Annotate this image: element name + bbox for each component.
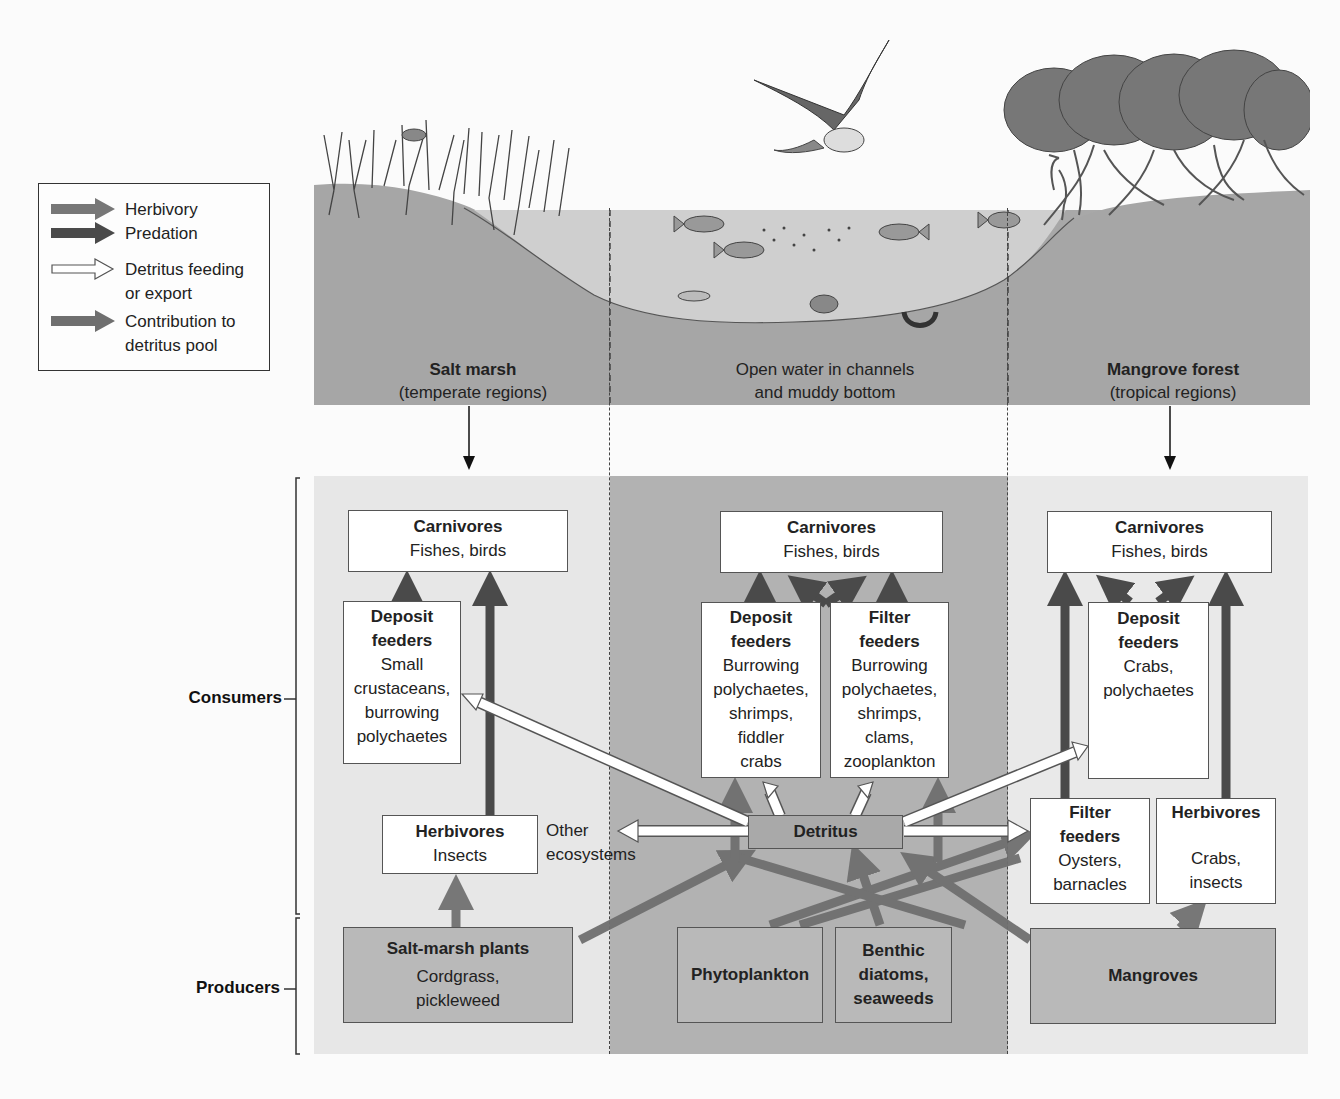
open-water-filter-feeders-box: Filter feeders Burrowing polychaetes, sh… xyxy=(830,602,949,778)
salt-marsh-plants-box: Salt-marsh plants Cordgrass, pickleweed xyxy=(343,927,573,1023)
phytoplankton-box: Phytoplankton xyxy=(677,927,823,1023)
mangroves-producer-box: Mangroves xyxy=(1030,928,1276,1024)
open-water-carnivores-box: Carnivores Fishes, birds xyxy=(720,511,943,573)
mangrove-filter-feeders-box: Filter feeders Oysters, barnacles xyxy=(1030,798,1150,904)
mangrove-deposit-feeders-box: Deposit feeders Crabs, polychaetes xyxy=(1088,602,1209,779)
salt-marsh-deposit-feeders-box: Deposit feeders Small crustaceans, burro… xyxy=(343,601,461,764)
other-ecosystems-label: Other ecosystems xyxy=(546,819,636,867)
open-water-deposit-feeders-box: Deposit feeders Burrowing polychaetes, s… xyxy=(701,602,821,778)
salt-marsh-carnivores-box: Carnivores Fishes, birds xyxy=(348,510,568,572)
mangrove-herbivores-box: Herbivores Crabs, insects xyxy=(1156,798,1276,904)
mangrove-carnivores-box: Carnivores Fishes, birds xyxy=(1047,511,1272,573)
benthic-diatoms-box: Benthic diatoms, seaweeds xyxy=(835,927,952,1023)
salt-marsh-herbivores-box: Herbivores Insects xyxy=(382,815,538,874)
detritus-box: Detritus xyxy=(748,815,903,849)
